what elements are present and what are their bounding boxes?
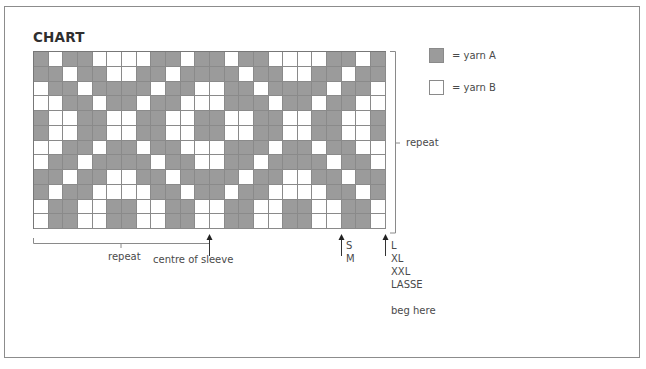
size-label-xxl: XXL: [391, 266, 423, 278]
size-label-group-l-lasse: L XL XXL LASSE: [391, 240, 423, 291]
centre-of-sleeve-label: centre of sleeve: [153, 254, 233, 266]
size-label-xl: XL: [391, 253, 423, 265]
size-label-lasse: LASSE: [391, 279, 423, 291]
horizontal-repeat-bracket: [34, 238, 210, 248]
begin-here-label: beg here: [391, 305, 436, 317]
size-label-s: S: [346, 240, 355, 252]
size-l-arrow-icon: [383, 234, 389, 256]
annotation-lines: [0, 0, 646, 369]
size-label-group-s-m: S M: [346, 240, 355, 265]
size-label-l: L: [391, 240, 423, 252]
size-label-m: M: [346, 253, 355, 265]
size-s-arrow-icon: [339, 234, 345, 256]
vertical-repeat-label: repeat: [406, 137, 439, 149]
centre-arrow-icon: [207, 234, 213, 256]
horizontal-repeat-label: repeat: [108, 251, 141, 263]
vertical-repeat-bracket: [390, 52, 400, 234]
